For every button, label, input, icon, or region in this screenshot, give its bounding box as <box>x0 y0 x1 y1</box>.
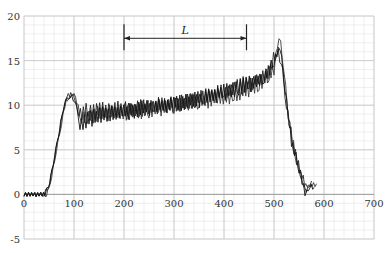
arrow-right-icon <box>241 36 247 40</box>
y-tick-label: -5 <box>10 234 20 245</box>
y-tick-label: 20 <box>7 11 20 22</box>
x-tick-label: 0 <box>21 198 27 209</box>
y-tick-label: 15 <box>7 56 20 67</box>
x-tick-label: 500 <box>264 198 283 209</box>
y-axis-ticks: 20151050-5 <box>7 11 20 245</box>
x-axis-ticks: 0100200300400500600700 <box>21 198 384 209</box>
y-tick-label: 5 <box>14 145 20 156</box>
x-tick-label: 700 <box>364 198 383 209</box>
annotation-label: L <box>181 24 189 37</box>
data-series <box>24 39 317 197</box>
x-tick-label: 300 <box>164 198 183 209</box>
x-tick-label: 200 <box>114 198 133 209</box>
length-annotation: L <box>124 24 247 50</box>
y-tick-label: 10 <box>7 100 20 111</box>
x-tick-label: 600 <box>314 198 333 209</box>
line-chart: 20151050-5 0100200300400500600700 L <box>0 0 390 253</box>
x-tick-label: 100 <box>64 198 83 209</box>
arrow-left-icon <box>124 36 130 40</box>
x-tick-label: 400 <box>214 198 233 209</box>
y-tick-label: 0 <box>14 189 20 200</box>
